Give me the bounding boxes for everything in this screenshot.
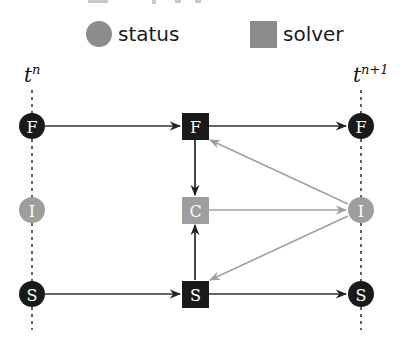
svg-text:F: F (355, 118, 366, 137)
node-left-F: F (19, 113, 45, 139)
svg-text:S: S (27, 286, 38, 305)
node-left-I: I (19, 197, 45, 223)
node-right-F: F (348, 113, 374, 139)
node-mid-S: S (182, 281, 209, 308)
node-right-I: I (348, 197, 374, 223)
status-circle-icon (86, 21, 112, 47)
time-label-right: tn+1 (353, 62, 389, 87)
legend-label-solver: solver (283, 22, 344, 46)
node-mid-F: F (182, 113, 209, 140)
svg-text:F: F (26, 118, 37, 137)
edge-rightI-midS (210, 216, 348, 280)
legend-label-status: status (118, 22, 179, 46)
node-right-S: S (348, 281, 374, 307)
solver-square-icon (250, 21, 277, 48)
svg-text:I: I (358, 202, 364, 221)
svg-text:F: F (190, 118, 201, 137)
edge-rightI-midF (210, 140, 348, 204)
cropped-caption-fragment (88, 0, 201, 4)
node-left-S: S (19, 281, 45, 307)
svg-text:S: S (190, 286, 201, 305)
legend-item-solver: solver (250, 21, 344, 48)
node-mid-C: C (182, 197, 209, 224)
svg-text:S: S (356, 286, 367, 305)
legend-item-status: status (86, 21, 179, 47)
legend: status solver (86, 21, 344, 48)
timestep-diagram: status solver tn tn+1 F I S F (0, 0, 406, 345)
svg-text:I: I (29, 202, 35, 221)
time-label-left: tn (24, 62, 40, 87)
svg-text:C: C (189, 202, 201, 221)
